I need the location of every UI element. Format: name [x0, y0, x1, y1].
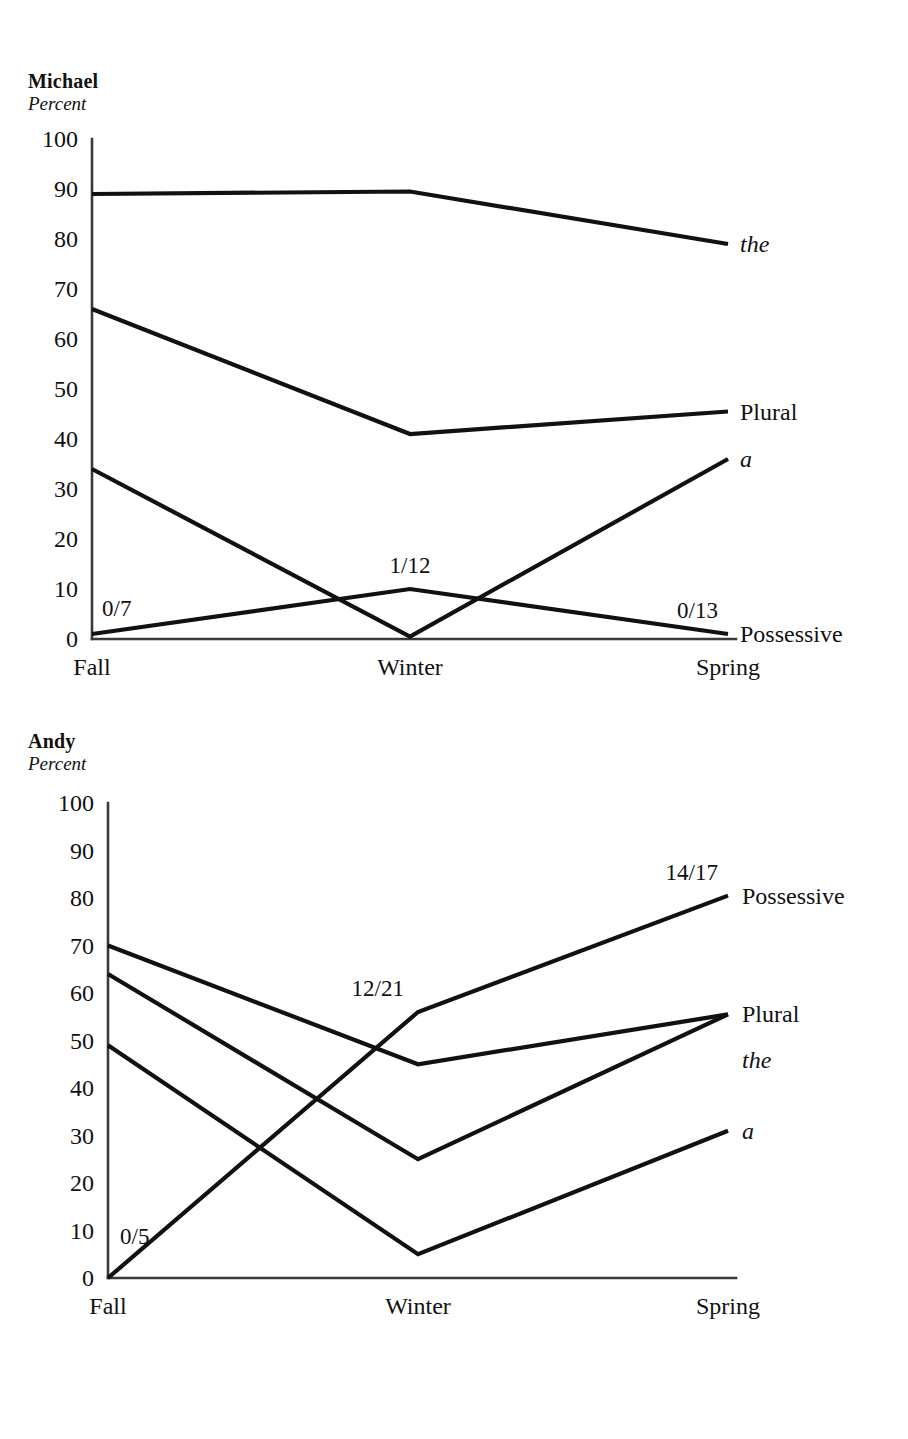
y-tick-label: 80 — [70, 885, 94, 911]
x-axis-label-spring: Spring — [696, 654, 760, 680]
plot-area-michael: 1009080706050403020100thePluralaPossessi… — [0, 129, 908, 689]
series-label-the: the — [742, 1047, 772, 1073]
chart-subtitle-michael: Percent — [0, 94, 908, 115]
plot-area-andy: 1009080706050403020100PossessivePluralth… — [0, 793, 908, 1353]
y-tick-label: 90 — [70, 837, 94, 863]
series-line-possessive — [108, 896, 728, 1278]
series-label-a: a — [742, 1118, 754, 1144]
y-tick-label: 50 — [54, 376, 78, 402]
chart-andy: Andy Percent 1009080706050403020100Posse… — [0, 730, 908, 1410]
series-line-a — [92, 459, 728, 637]
y-tick-label: 0 — [66, 626, 78, 652]
chart-title-michael: Michael — [0, 70, 908, 92]
series-line-plural — [108, 945, 728, 1064]
chart-michael: Michael Percent 1009080706050403020100th… — [0, 70, 908, 720]
line-chart-svg-michael: 1009080706050403020100thePluralaPossessi… — [0, 129, 908, 689]
x-axis-label-fall: Fall — [73, 654, 111, 680]
y-tick-label: 50 — [70, 1027, 94, 1053]
series-label-possessive: Possessive — [740, 621, 843, 647]
x-axis-label-winter: Winter — [385, 1293, 451, 1319]
y-tick-label: 60 — [54, 326, 78, 352]
point-annotation: 12/21 — [352, 976, 404, 1001]
y-tick-label: 70 — [70, 932, 94, 958]
chart-subtitle-andy: Percent — [0, 754, 908, 775]
point-annotation: 0/7 — [102, 596, 131, 621]
point-annotation: 0/5 — [120, 1224, 149, 1249]
x-axis-label-fall: Fall — [89, 1293, 127, 1319]
y-tick-label: 100 — [42, 129, 78, 152]
series-label-plural: Plural — [740, 398, 798, 424]
y-tick-label: 20 — [54, 526, 78, 552]
y-tick-label: 30 — [70, 1122, 94, 1148]
point-annotation: 14/17 — [666, 860, 718, 885]
chart-title-andy: Andy — [0, 730, 908, 752]
series-label-a: a — [740, 446, 752, 472]
y-tick-label: 0 — [82, 1265, 94, 1291]
series-line-plural — [92, 309, 728, 434]
line-chart-svg-andy: 1009080706050403020100PossessivePluralth… — [0, 793, 908, 1353]
y-tick-label: 80 — [54, 226, 78, 252]
series-label-possessive: Possessive — [742, 883, 845, 909]
y-tick-label: 10 — [54, 576, 78, 602]
y-tick-label: 70 — [54, 276, 78, 302]
series-line-the — [92, 191, 728, 244]
y-tick-label: 20 — [70, 1170, 94, 1196]
x-axis-label-winter: Winter — [377, 654, 443, 680]
y-tick-label: 60 — [70, 980, 94, 1006]
y-tick-label: 10 — [70, 1217, 94, 1243]
series-line-possessive — [92, 589, 728, 634]
y-tick-label: 40 — [70, 1075, 94, 1101]
series-label-plural: Plural — [742, 1001, 800, 1027]
y-tick-label: 40 — [54, 426, 78, 452]
series-line-a — [108, 1045, 728, 1254]
point-annotation: 0/13 — [677, 598, 718, 623]
x-axis-label-spring: Spring — [696, 1293, 760, 1319]
y-tick-label: 90 — [54, 176, 78, 202]
y-tick-label: 30 — [54, 476, 78, 502]
series-label-the: the — [740, 231, 770, 257]
series-line-the — [108, 974, 728, 1159]
y-tick-label: 100 — [58, 793, 94, 816]
point-annotation: 1/12 — [390, 553, 431, 578]
page-root: Michael Percent 1009080706050403020100th… — [0, 0, 908, 1439]
